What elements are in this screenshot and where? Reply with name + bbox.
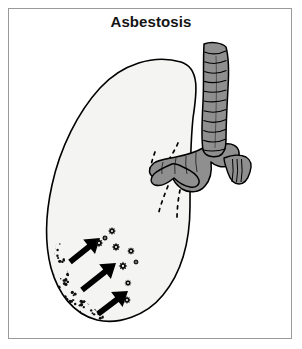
fibrosis-stipple-dot [90, 309, 92, 311]
fibrosis-stipple-dot [55, 309, 57, 311]
nodule-center [135, 261, 137, 263]
fibrosis-stipple-dot [61, 305, 64, 308]
fibrosis-stipple-dot [63, 308, 66, 311]
fibrosis-stipple-dot [57, 310, 59, 312]
fibrosis-stipple-dot [53, 286, 56, 289]
nodule-center [115, 246, 117, 248]
fibrosis-stipple-dot [51, 297, 53, 299]
fibrosis-stipple-dot [75, 316, 78, 319]
fibrosis-stipple-dot [70, 323, 73, 326]
fibrosis-stipple-dot [58, 260, 61, 263]
fibrosis-stipple-dot [103, 325, 105, 327]
fibrosis-stipple-dot [47, 319, 50, 322]
fibrosis-stipple-dot [47, 301, 50, 304]
fibrosis-stipple-dot [80, 300, 83, 303]
fibrosis-stipple-dot [50, 290, 52, 292]
fibrosis-stipple-dot [99, 317, 102, 320]
fibrosis-stipple-dot [83, 317, 86, 320]
nodule-center [111, 230, 113, 232]
fibrosis-stipple-dot [47, 304, 50, 307]
fibrosis-stipple-dot [74, 303, 76, 305]
fibrosis-stipple-dot [67, 308, 70, 311]
fibrosis-stipple-dot [64, 313, 67, 316]
fibrosis-stipple-dot [49, 279, 52, 282]
fibrosis-stipple-dot [58, 325, 59, 326]
fibrosis-stipple-dot [55, 321, 58, 324]
fibrosis-stipple-dot [63, 300, 66, 303]
fibrosis-stipple-dot [64, 283, 67, 286]
fibrosis-stipple-dot [97, 322, 100, 325]
fibrosis-stipple-dot [63, 302, 66, 305]
fibrosis-stipple-dot [57, 312, 60, 315]
fibrosis-stipple-dot [64, 304, 67, 307]
nodule-center [104, 237, 106, 239]
fibrosis-stipple-dot [48, 308, 50, 310]
fibrosis-stipple-dot [57, 257, 59, 259]
fibrosis-stipple-dot [83, 306, 85, 308]
fibrosis-stipple-dot [61, 324, 64, 327]
fibrosis-stipple-dot [81, 317, 83, 319]
fibrosis-stipple-dot [86, 324, 88, 326]
fibrosis-stipple-dot [49, 317, 52, 320]
fibrosis-stipple-dot [74, 317, 76, 319]
fibrosis-stipple-dot [54, 322, 56, 324]
fibrosis-stipple-dot [79, 311, 81, 313]
fibrosis-stipple-dot [50, 307, 51, 308]
fibrosis-stipple-dot [93, 313, 95, 315]
fibrosis-stipple-dot [59, 243, 61, 245]
fibrosis-stipple-dot [61, 325, 64, 328]
fibrosis-stipple-dot [56, 299, 57, 300]
fibrosis-stipple-dot [57, 318, 59, 320]
fibrosis-stipple-dot [65, 311, 68, 314]
fibrosis-stipple-dot [63, 301, 66, 304]
fibrosis-stipple-dot [58, 299, 60, 301]
nodule-center [98, 242, 100, 244]
fibrosis-stipple-dot [51, 288, 53, 290]
fibrosis-stipple-dot [56, 254, 58, 256]
nodule-center [126, 299, 128, 301]
fibrosis-stipple-dot [51, 308, 54, 311]
fibrosis-stipple-dot [65, 324, 67, 326]
fibrosis-stipple-dot [70, 320, 72, 322]
fibrosis-stipple-dot [48, 283, 51, 286]
fibrosis-stipple-dot [52, 301, 54, 303]
fibrosis-stipple-dot [58, 306, 60, 308]
fibrosis-stipple-dot [68, 321, 70, 323]
fibrosis-stipple-dot [79, 304, 81, 306]
fibrosis-stipple-dot [47, 267, 49, 269]
fibrosis-stipple-dot [96, 323, 99, 326]
fibrosis-stipple-dot [51, 289, 54, 292]
fibrosis-stipple-dot [51, 279, 53, 281]
nodule-center [130, 250, 132, 252]
fibrosis-stipple-dot [106, 322, 108, 324]
fibrosis-stipple-dot [66, 304, 69, 307]
fibrosis-stipple-dot [54, 311, 56, 313]
fibrosis-stipple-dot [62, 323, 65, 326]
fibrosis-stipple-dot [73, 325, 76, 328]
fibrosis-stipple-dot [50, 279, 52, 281]
fibrosis-stipple-dot [57, 295, 60, 298]
nodule-center [127, 282, 129, 284]
fibrosis-stipple-dot [71, 312, 73, 314]
fibrosis-stipple-dot [51, 292, 53, 294]
fibrosis-stipple-dot [51, 318, 53, 320]
fibrosis-stipple-dot [71, 291, 74, 294]
nodule-center [122, 265, 124, 267]
lung-illustration-svg [0, 0, 302, 349]
fibrosis-stipple-dot [74, 322, 76, 324]
fibrosis-stipple-dot [47, 282, 50, 285]
fibrosis-stipple-dot [57, 305, 60, 308]
fibrosis-stipple-dot [72, 299, 74, 301]
fibrosis-stipple-dot [48, 279, 50, 281]
fibrosis-stipple-dot [64, 278, 67, 281]
fibrosis-stipple-dot [60, 278, 62, 280]
fibrosis-stipple-dot [75, 322, 78, 325]
fibrosis-stipple-dot [66, 316, 68, 318]
fibrosis-stipple-dot [70, 319, 72, 321]
fibrosis-stipple-dot [65, 306, 68, 309]
asbestosis-figure: Asbestosis [0, 0, 302, 349]
fibrosis-stipple-dot [59, 316, 61, 318]
fibrosis-stipple-dot [97, 323, 99, 325]
fibrosis-stipple-dot [54, 297, 57, 300]
fibrosis-stipple-dot [84, 324, 87, 327]
